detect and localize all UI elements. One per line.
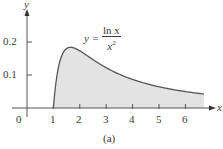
y-axis-arrow-icon: [25, 9, 30, 16]
chart-plot: [0, 0, 223, 149]
y-axis-label: y: [24, 0, 29, 10]
x-tick-label-5: 5: [156, 114, 162, 125]
x-tick-label-4: 4: [129, 114, 135, 125]
x-tick-label-6: 6: [182, 114, 188, 125]
x-tick-label-3: 3: [103, 114, 109, 125]
x-tick-label-0: 0: [16, 114, 22, 125]
formula-exponent: 2: [112, 39, 116, 47]
formula-denominator: x2: [107, 37, 115, 52]
formula-fraction: ln x x2: [102, 25, 121, 52]
x-axis-arrow-icon: [209, 106, 216, 111]
y-tick-label-0.2: 0.2: [3, 36, 17, 47]
formula-lhs: y =: [84, 32, 99, 44]
function-formula: y = ln x x2: [84, 25, 121, 52]
x-axis-label: x: [217, 102, 222, 113]
formula-numerator: ln x: [102, 25, 121, 37]
x-tick-label-2: 2: [76, 114, 82, 125]
figure-caption: (a): [103, 133, 115, 144]
x-tick-label-1: 1: [50, 114, 56, 125]
y-tick-label-0.1: 0.1: [3, 69, 17, 80]
